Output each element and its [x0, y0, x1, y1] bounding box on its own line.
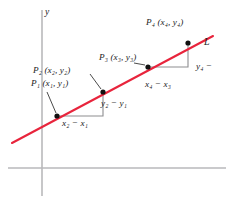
- point-p2: [100, 89, 105, 94]
- point-label-p4: P₄ (x₄, y₄): [146, 18, 183, 27]
- delta-x-label-p1-p2: x₂ − x₁: [62, 119, 88, 128]
- line-name-label: L: [204, 37, 210, 47]
- line-slope-diagram: y P₄ (x₄, y₄) L y₄ − P₃ (x₃, y₃) x₄ − x₃…: [0, 0, 229, 201]
- point-label-p3: P₃ (x₃, y₃): [99, 53, 136, 62]
- rise-run-triangle-p3-p4: [148, 43, 188, 67]
- delta-y-label-p3-p4: y₄ −: [196, 62, 212, 71]
- leader-p1: [47, 92, 56, 113]
- point-p4: [185, 40, 190, 45]
- point-p1: [54, 113, 59, 118]
- leader-p3: [134, 63, 145, 65]
- point-label-p2: P₂ (x₂, y₂): [33, 66, 70, 75]
- rise-run-triangle-p1-p2: [57, 92, 103, 116]
- point-label-p1: P₁ (x₁, y₁): [31, 79, 68, 88]
- point-p3: [145, 64, 150, 69]
- delta-x-label-p3-p4: x₄ − x₃: [145, 80, 171, 89]
- delta-y-label-p1-p2: y₂ − y₁: [101, 99, 127, 108]
- y-axis-label: y: [45, 8, 49, 18]
- leader-p2: [90, 74, 101, 89]
